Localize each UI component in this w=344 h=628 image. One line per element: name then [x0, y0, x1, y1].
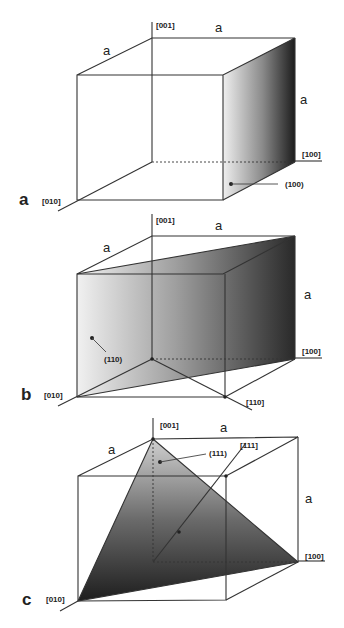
plane-110-face [77, 236, 295, 397]
panel-label: b [21, 385, 31, 404]
axis-label-100: [100] [302, 150, 321, 159]
panel-b: [001] [100] [010] [110] (110) a a a b [21, 214, 322, 410]
panel-c: [001] [100] [010] [111] (111) a a a c [22, 418, 325, 611]
axis-label-001: [001] [156, 21, 175, 30]
plane-label: (111) [209, 449, 227, 458]
axis-label-001: [001] [160, 421, 179, 430]
plane-111-face [78, 439, 298, 601]
axis-label-100: [100] [302, 347, 321, 356]
panel-label: c [22, 590, 31, 609]
panel-label: a [19, 190, 29, 209]
axis-label-001: [001] [156, 216, 175, 225]
edge-label-a: a [108, 442, 116, 457]
edge-label-a: a [215, 20, 223, 35]
crystal-planes-diagram: [001] [100] [010] (100) a a a a [001] [1… [0, 0, 344, 628]
edge-label-a: a [215, 218, 223, 233]
plane-100-face [223, 38, 295, 200]
edge-label-a: a [103, 240, 111, 255]
axis-010 [58, 162, 152, 211]
direction-label: [110] [246, 398, 265, 407]
axis-label-100: [100] [305, 552, 324, 561]
plane-label: (110) [104, 355, 123, 364]
edge-label-a: a [300, 92, 308, 107]
direction-label: [111] [240, 441, 258, 450]
panel-a: [001] [100] [010] (100) a a a a [19, 20, 322, 211]
plane-label: (100) [285, 180, 304, 189]
axis-label-010: [010] [42, 197, 61, 206]
edge-label-a: a [103, 43, 111, 58]
axis-label-010: [010] [44, 391, 63, 400]
edge-label-a: a [304, 287, 312, 302]
edge-label-a: a [220, 420, 228, 435]
edge-label-a: a [305, 491, 313, 506]
axis-label-010: [010] [46, 595, 65, 604]
